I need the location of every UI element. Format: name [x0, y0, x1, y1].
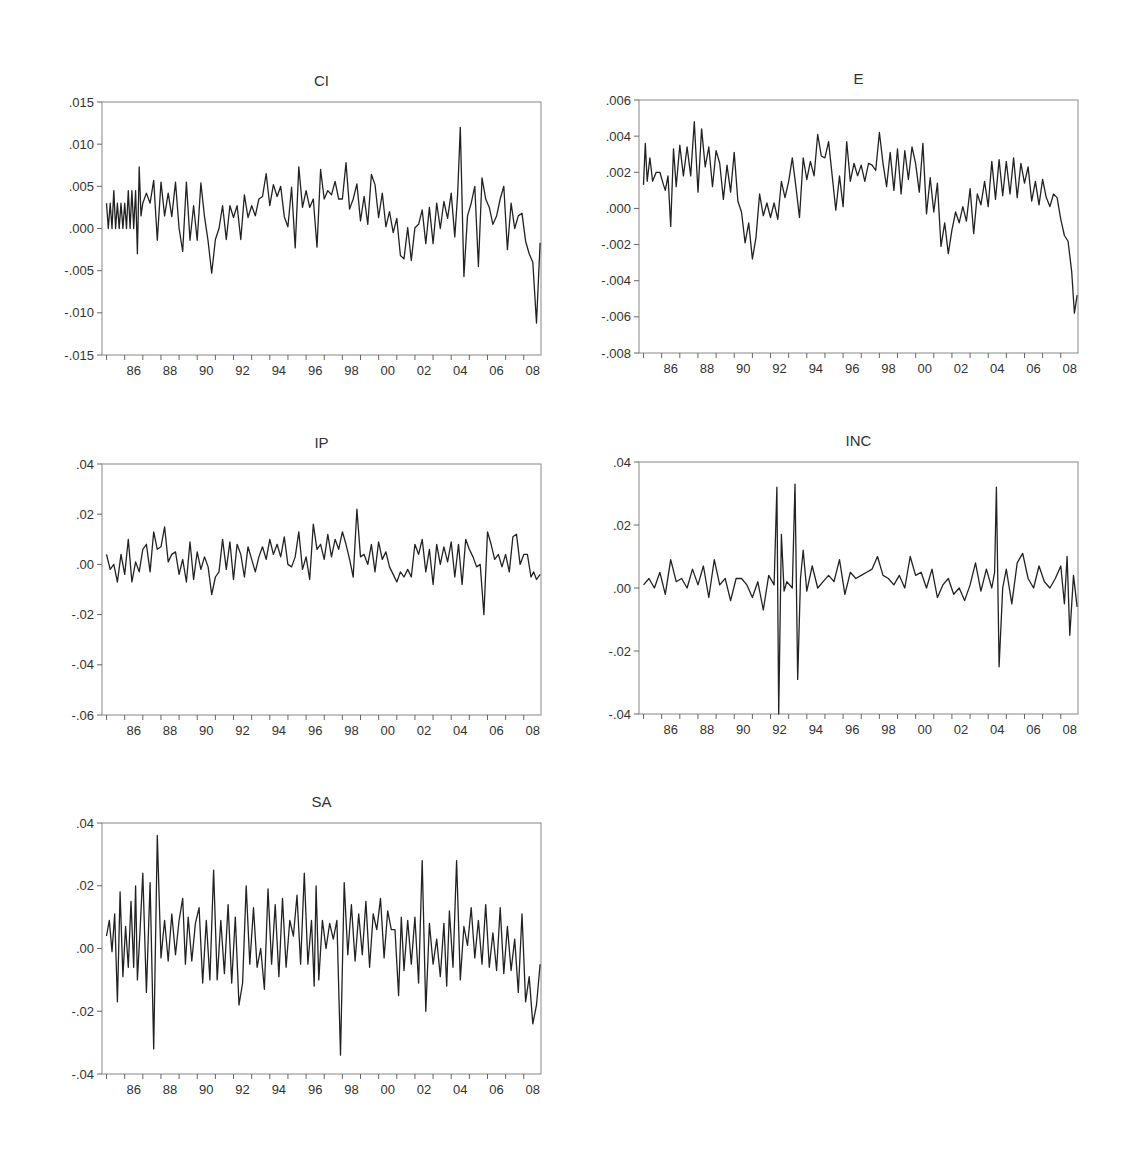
x-tick-label: 88 — [163, 1082, 177, 1097]
x-tick-label: 00 — [380, 1082, 394, 1097]
plot-area-sa: .04.02.00-.02-.0486889092949698000204060… — [0, 0, 1130, 1158]
x-tick-label: 06 — [489, 1082, 503, 1097]
x-tick-label: 92 — [235, 1082, 249, 1097]
y-tick-label: .00 — [76, 941, 94, 956]
x-tick-label: 94 — [272, 1082, 286, 1097]
x-tick-label: 08 — [526, 1082, 540, 1097]
x-tick-label: 04 — [453, 1082, 467, 1097]
y-tick-label: .04 — [76, 816, 94, 831]
x-tick-label: 86 — [127, 1082, 141, 1097]
y-tick-label: -.04 — [72, 1067, 94, 1082]
x-tick-label: 02 — [417, 1082, 431, 1097]
x-tick-label: 90 — [199, 1082, 213, 1097]
x-tick-label: 98 — [344, 1082, 358, 1097]
y-tick-label: .02 — [76, 878, 94, 893]
x-tick-label: 96 — [308, 1082, 322, 1097]
y-tick-label: -.02 — [72, 1004, 94, 1019]
series-line-sa — [107, 836, 541, 1056]
